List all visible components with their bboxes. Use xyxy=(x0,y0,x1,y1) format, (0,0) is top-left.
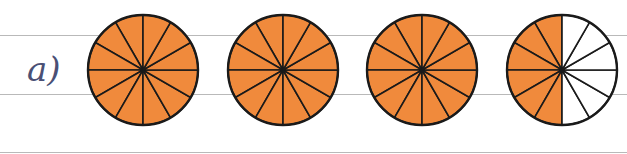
fraction-circle-3 xyxy=(367,15,477,125)
fraction-circle-4 xyxy=(507,15,617,125)
fraction-circles xyxy=(0,0,627,154)
fraction-circle-1 xyxy=(88,15,198,125)
fraction-circle-2 xyxy=(228,15,338,125)
